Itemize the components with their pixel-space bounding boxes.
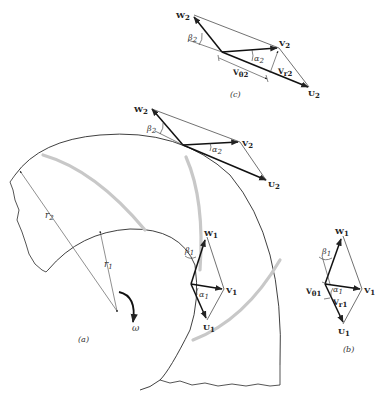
V1-label-b: V1 — [363, 285, 375, 297]
omega-label: ω — [132, 323, 140, 333]
W2-label: W2 — [133, 104, 148, 116]
W1-label: W1 — [203, 228, 218, 240]
W1-vector — [191, 240, 205, 284]
V1-label: V1 — [225, 285, 237, 297]
V2-label: V2 — [241, 138, 253, 150]
blade-1 — [43, 155, 145, 230]
W1-label-b: W1 — [334, 226, 349, 238]
r2-label: r2 — [45, 210, 54, 222]
panel-b-label: (b) — [343, 345, 354, 354]
panel-a-label: (a) — [78, 335, 89, 344]
V2-vector-c — [222, 48, 277, 52]
beta1-label: β1 — [184, 246, 194, 257]
Vr2-label: Vr2 — [277, 67, 293, 78]
U1-label-b: U1 — [338, 326, 350, 338]
U2-label: U2 — [268, 179, 280, 191]
U2-vector — [183, 145, 266, 180]
torn-edge-bottom — [160, 365, 280, 386]
alpha1-label: α1 — [199, 290, 209, 301]
impeller-panel-a: r2 r1 ω (a) W2 β2 V2 α2 U2 — [10, 104, 280, 390]
outlet-triangle-on-impeller: W2 β2 V2 α2 U2 — [133, 104, 280, 191]
W1-vector-b — [325, 239, 341, 284]
torn-edge-left — [10, 175, 48, 272]
inlet-triangle-panel-b: W1 β1 V1 α1 Vθ1 Vr1 U1 (b) — [305, 226, 375, 354]
r1-label: r1 — [104, 259, 113, 271]
beta1-label-b: β1 — [321, 247, 331, 258]
center-point — [116, 310, 118, 312]
inner-radius-arc — [48, 229, 197, 390]
W2-label-c: W2 — [175, 10, 190, 22]
beta2-label: β2 — [146, 124, 157, 135]
Vtheta1-label: Vθ1 — [305, 287, 322, 298]
U2-label-c: U2 — [308, 88, 320, 100]
beta2-label-c: β2 — [187, 33, 198, 44]
impeller-diagram: r2 r1 ω (a) W2 β2 V2 α2 U2 — [0, 0, 380, 393]
V1-vector — [191, 284, 222, 289]
outlet-triangle-panel-c: W2 β2 V2 α2 Vr2 Vθ2 U2 (c) — [175, 10, 320, 100]
Vr2-component — [270, 51, 278, 73]
V2-label-c: V2 — [278, 38, 290, 50]
r2-line — [20, 171, 117, 311]
panel-c-label: (c) — [230, 90, 241, 99]
alpha2-label: α2 — [212, 145, 222, 156]
rotation-arrow-icon — [119, 292, 134, 322]
Vr1-label: Vr1 — [332, 298, 348, 309]
Vtheta2-label: Vθ2 — [232, 68, 249, 79]
alpha2-label-c: α2 — [254, 54, 264, 65]
